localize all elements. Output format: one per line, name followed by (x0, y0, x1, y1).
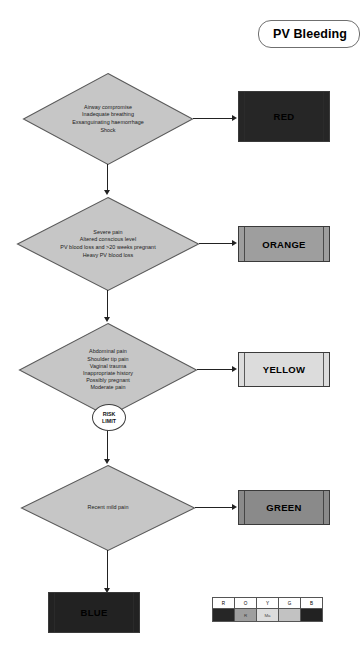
category-label-green: GREEN (266, 502, 301, 513)
connector-red-horizontal (193, 118, 233, 119)
category-label-orange: ORANGE (262, 239, 306, 250)
category-box-green: GREEN (238, 490, 330, 525)
decision-red-text: Airway compromise Inadequate breathing E… (31, 104, 186, 134)
decision-yellow-text: Abdominal pain Shoulder tip pain Vaginal… (27, 348, 189, 391)
chart-title-pill: PV Bleeding (258, 20, 360, 48)
connector-green-arrowhead (232, 504, 237, 510)
connector-orange-to-yellow-line (107, 290, 108, 320)
legend-swatch-yellow: Ma (257, 608, 279, 621)
connector-red-to-orange-arrowhead (104, 190, 110, 195)
box-divider-left (244, 92, 245, 141)
legend-swatch-blue (301, 608, 322, 621)
legend-header-row: R O Y G B (213, 598, 322, 608)
legend-header-o: O (235, 598, 257, 608)
priority-legend-table: R O Y G B R Ma (212, 597, 323, 622)
legend-swatch-red (213, 608, 235, 621)
legend-swatch-green (279, 608, 301, 621)
legend-header-b: B (301, 598, 322, 608)
box-divider-right (323, 491, 324, 524)
connector-green-horizontal (195, 507, 233, 508)
risk-limit-marker: RISK LIMIT (92, 404, 126, 431)
category-label-red: RED (274, 111, 295, 122)
risk-limit-line2: LIMIT (102, 418, 116, 424)
decision-orange-criteria: Severe pain Altered conscious level PV b… (16, 196, 200, 292)
category-label-blue: BLUE (80, 607, 107, 618)
box-divider-left (54, 593, 55, 632)
connector-orange-arrowhead (232, 240, 237, 246)
decision-orange-text: Severe pain Altered conscious level PV b… (25, 229, 191, 259)
box-divider-left (244, 491, 245, 524)
legend-header-r: R (213, 598, 235, 608)
connector-red-arrowhead (232, 115, 237, 121)
connector-yellow-arrowhead (232, 366, 237, 372)
legend-swatch-row: R Ma (213, 608, 322, 621)
legend-header-y: Y (257, 598, 279, 608)
box-divider-right (323, 353, 324, 386)
legend-swatch-orange: R (235, 608, 257, 621)
decision-green-criteria: Recent mild pain (20, 464, 196, 552)
box-divider-right (323, 227, 324, 261)
box-divider-right (323, 92, 324, 141)
category-box-red: RED (238, 91, 330, 142)
connector-red-to-orange-line (107, 164, 108, 193)
chart-title-label: PV Bleeding (273, 27, 347, 41)
category-box-orange: ORANGE (238, 226, 330, 262)
category-box-yellow: YELLOW (238, 352, 330, 387)
connector-orange-horizontal (199, 243, 233, 244)
decision-green-text: Recent mild pain (29, 504, 187, 512)
box-divider-right (133, 593, 134, 632)
legend-header-g: G (279, 598, 301, 608)
box-divider-left (244, 353, 245, 386)
connector-green-to-blue-line (107, 550, 108, 591)
box-divider-left (244, 227, 245, 261)
category-box-blue: BLUE (48, 592, 140, 633)
connector-yellow-horizontal (197, 369, 233, 370)
category-label-yellow: YELLOW (263, 364, 305, 375)
connector-yellow-to-green-line (107, 428, 108, 462)
decision-red-criteria: Airway compromise Inadequate breathing E… (22, 72, 194, 166)
